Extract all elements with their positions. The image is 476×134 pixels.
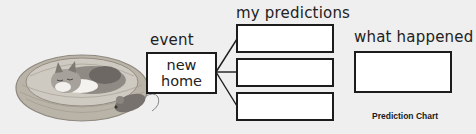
- prediction-box-3[interactable]: [236, 92, 334, 121]
- connector-bottom: [216, 72, 237, 106]
- connector-top: [216, 39, 237, 72]
- chart-caption: Prediction Chart: [372, 111, 438, 121]
- outcome-heading: what happened: [354, 28, 473, 46]
- event-heading: event: [150, 31, 194, 49]
- event-value: new home: [148, 57, 215, 89]
- prediction-box-2[interactable]: [236, 58, 334, 87]
- connector-lines: [216, 39, 237, 106]
- outcome-box[interactable]: [354, 51, 452, 93]
- event-box: new home: [146, 52, 217, 94]
- prediction-box-1[interactable]: [236, 24, 334, 53]
- predictions-heading: my predictions: [236, 4, 350, 22]
